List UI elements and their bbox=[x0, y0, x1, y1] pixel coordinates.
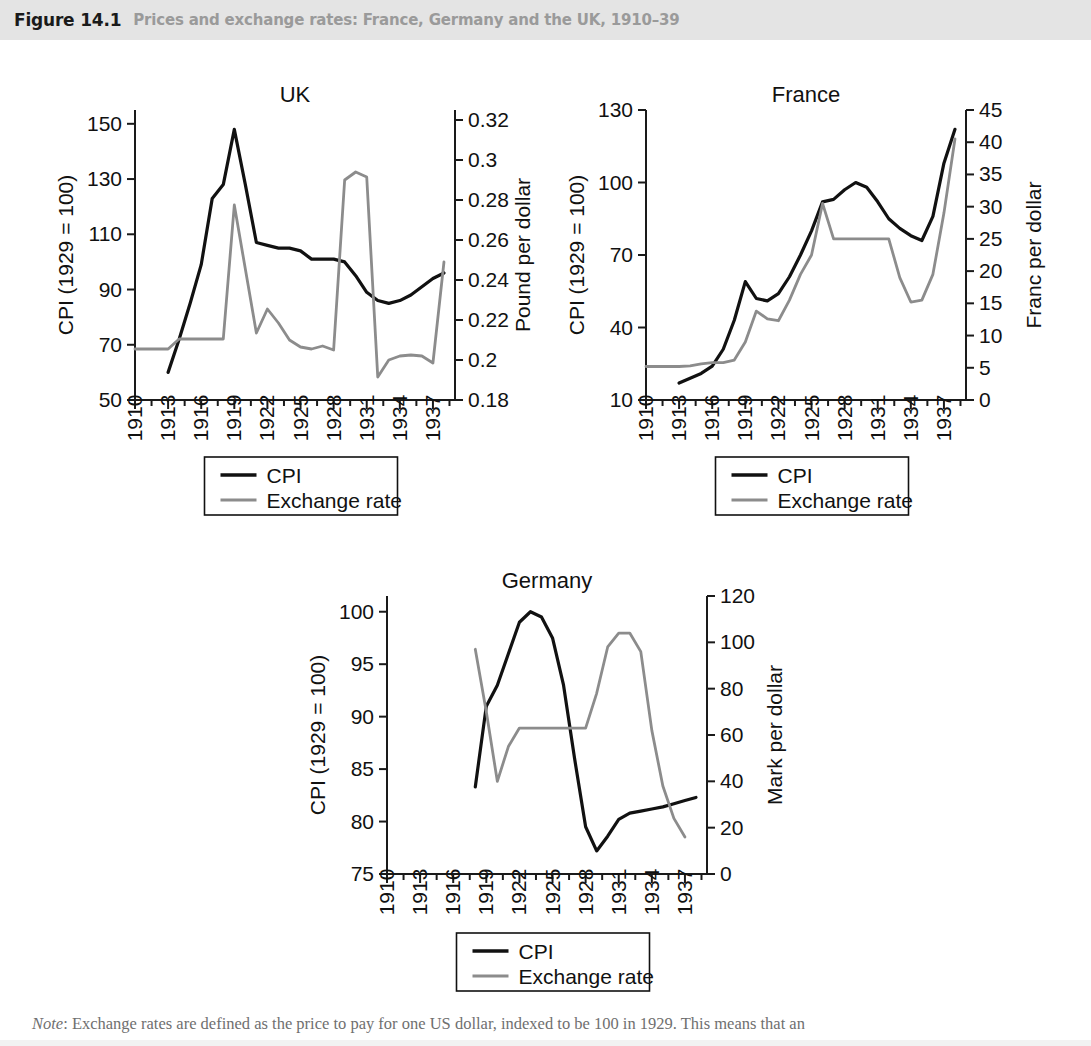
series-line-france-cpi bbox=[679, 129, 955, 383]
right-tick-label-france: 10 bbox=[979, 324, 1002, 347]
x-tick-label-france: 1922 bbox=[766, 395, 789, 442]
right-tick-label-uk: 0.3 bbox=[468, 148, 497, 171]
legend-label-germany-cpi: CPI bbox=[519, 940, 554, 963]
left-tick-label-uk: 130 bbox=[87, 167, 122, 190]
right-tick-label-france: 15 bbox=[979, 291, 1002, 314]
legend-label-france-exchange-rate: Exchange rate bbox=[778, 489, 913, 512]
x-tick-label-france: 1910 bbox=[634, 395, 657, 442]
legend-label-uk-cpi: CPI bbox=[267, 464, 302, 487]
left-tick-label-france: 100 bbox=[598, 171, 633, 194]
left-tick-label-germany: 90 bbox=[351, 705, 374, 728]
x-tick-label-france: 1913 bbox=[667, 395, 690, 442]
x-tick-label-uk: 1937 bbox=[421, 395, 444, 442]
legend-label-germany-exchange-rate: Exchange rate bbox=[519, 965, 654, 988]
left-tick-label-germany: 80 bbox=[351, 810, 374, 833]
series-line-germany-cpi bbox=[475, 612, 696, 851]
x-tick-label-uk: 1913 bbox=[156, 395, 179, 442]
right-tick-label-germany: 20 bbox=[720, 816, 743, 839]
x-tick-label-germany: 1916 bbox=[441, 869, 464, 916]
chart-uk: UK5070901101301500.180.20.220.240.260.28… bbox=[40, 80, 550, 520]
page-bottom-divider bbox=[0, 1040, 1091, 1046]
left-axis-title-france: CPI (1929 = 100) bbox=[565, 175, 588, 336]
left-tick-label-germany: 95 bbox=[351, 652, 374, 675]
x-tick-label-uk: 1928 bbox=[322, 395, 345, 442]
x-tick-label-germany: 1931 bbox=[607, 869, 630, 916]
right-tick-label-germany: 60 bbox=[720, 723, 743, 746]
right-tick-label-uk: 0.22 bbox=[468, 308, 509, 331]
x-tick-label-uk: 1925 bbox=[289, 395, 312, 442]
note-text: : Exchange rates are defined as the pric… bbox=[63, 1014, 805, 1033]
x-tick-label-germany: 1922 bbox=[507, 869, 530, 916]
figure-header-bar: Figure 14.1 Prices and exchange rates: F… bbox=[0, 0, 1091, 40]
right-tick-label-uk: 0.18 bbox=[468, 388, 509, 411]
x-tick-label-germany: 1910 bbox=[375, 869, 398, 916]
right-tick-label-france: 0 bbox=[979, 388, 991, 411]
right-tick-label-germany: 100 bbox=[720, 630, 755, 653]
right-tick-label-germany: 0 bbox=[720, 862, 732, 885]
x-tick-label-germany: 1928 bbox=[574, 869, 597, 916]
chart-svg-france: France1040701001300510152025303540451910… bbox=[551, 80, 1061, 520]
left-tick-label-uk: 110 bbox=[89, 222, 122, 245]
x-tick-label-uk: 1934 bbox=[388, 394, 411, 441]
left-tick-label-france: 40 bbox=[610, 316, 633, 339]
figure-note: Note: Exchange rates are defined as the … bbox=[32, 1014, 1062, 1034]
x-tick-label-germany: 1934 bbox=[640, 868, 663, 915]
chart-svg-uk: UK5070901101301500.180.20.220.240.260.28… bbox=[40, 80, 550, 520]
note-lead: Note bbox=[32, 1014, 63, 1033]
x-tick-label-uk: 1919 bbox=[222, 395, 245, 442]
series-line-germany-exchange-rate bbox=[475, 633, 685, 837]
chart-france: France1040701001300510152025303540451910… bbox=[551, 80, 1061, 520]
legend-label-france-cpi: CPI bbox=[778, 464, 813, 487]
x-tick-label-france: 1934 bbox=[899, 394, 922, 441]
right-tick-label-germany: 120 bbox=[720, 584, 755, 607]
left-tick-label-germany: 75 bbox=[351, 862, 374, 885]
x-tick-label-germany: 1913 bbox=[408, 869, 431, 916]
left-tick-label-uk: 50 bbox=[99, 388, 122, 411]
series-line-uk-cpi bbox=[168, 129, 444, 372]
x-tick-label-france: 1937 bbox=[932, 395, 955, 442]
right-tick-label-uk: 0.24 bbox=[468, 268, 509, 291]
left-tick-label-uk: 90 bbox=[99, 278, 122, 301]
right-tick-label-france: 20 bbox=[979, 259, 1002, 282]
right-axis-title-germany: Mark per dollar bbox=[763, 665, 786, 805]
left-tick-label-uk: 150 bbox=[87, 112, 122, 135]
chart-svg-germany: Germany758085909510002040608010012019101… bbox=[292, 548, 802, 996]
right-tick-label-france: 40 bbox=[979, 130, 1002, 153]
x-tick-label-uk: 1922 bbox=[255, 395, 278, 442]
legend-uk: CPIExchange rate bbox=[205, 457, 402, 515]
right-tick-label-uk: 0.32 bbox=[468, 108, 509, 131]
x-tick-label-germany: 1937 bbox=[673, 869, 696, 916]
chart-title-germany: Germany bbox=[502, 568, 592, 593]
x-tick-label-uk: 1910 bbox=[123, 395, 146, 442]
left-tick-label-uk: 70 bbox=[99, 333, 122, 356]
right-tick-label-france: 5 bbox=[979, 356, 991, 379]
x-tick-label-uk: 1931 bbox=[355, 395, 378, 442]
chart-title-uk: UK bbox=[280, 82, 311, 107]
x-tick-label-france: 1931 bbox=[866, 395, 889, 442]
x-tick-label-germany: 1919 bbox=[474, 869, 497, 916]
left-axis-title-germany: CPI (1929 = 100) bbox=[306, 655, 329, 816]
x-tick-label-uk: 1916 bbox=[189, 395, 212, 442]
right-tick-label-uk: 0.26 bbox=[468, 228, 509, 251]
right-tick-label-germany: 40 bbox=[720, 769, 743, 792]
right-tick-label-uk: 0.28 bbox=[468, 188, 509, 211]
left-tick-label-france: 70 bbox=[610, 243, 633, 266]
legend-label-uk-exchange-rate: Exchange rate bbox=[267, 489, 402, 512]
figure-title: Prices and exchange rates: France, Germa… bbox=[133, 11, 679, 29]
left-axis-title-uk: CPI (1929 = 100) bbox=[54, 175, 77, 336]
right-tick-label-france: 30 bbox=[979, 195, 1002, 218]
series-line-uk-exchange-rate bbox=[135, 172, 444, 377]
right-axis-title-france: Franc per dollar bbox=[1022, 181, 1045, 328]
x-tick-label-france: 1916 bbox=[700, 395, 723, 442]
legend-germany: CPIExchange rate bbox=[457, 933, 654, 991]
figure-number: Figure 14.1 bbox=[14, 10, 121, 30]
right-tick-label-france: 25 bbox=[979, 227, 1002, 250]
x-tick-label-france: 1925 bbox=[800, 395, 823, 442]
right-tick-label-uk: 0.2 bbox=[468, 348, 497, 371]
right-tick-label-france: 35 bbox=[979, 162, 1002, 185]
x-tick-label-france: 1928 bbox=[833, 395, 856, 442]
left-tick-label-germany: 100 bbox=[339, 600, 374, 623]
chart-title-france: France bbox=[772, 82, 840, 107]
chart-germany: Germany758085909510002040608010012019101… bbox=[292, 548, 802, 996]
x-tick-label-france: 1919 bbox=[733, 395, 756, 442]
